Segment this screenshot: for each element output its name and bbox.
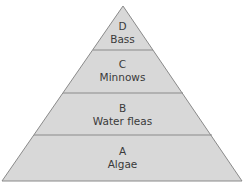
layer-c-letter: C [0, 58, 245, 71]
layer-c-name: Minnows [0, 71, 245, 84]
layer-a-letter: A [0, 145, 245, 158]
layer-b: B Water fleas [0, 102, 245, 128]
layer-a-name: Algae [0, 158, 245, 171]
layer-d: D Bass [0, 20, 245, 46]
layer-d-letter: D [0, 20, 245, 33]
layer-a: A Algae [0, 145, 245, 171]
layer-d-name: Bass [0, 33, 245, 46]
layer-b-letter: B [0, 102, 245, 115]
layer-c: C Minnows [0, 58, 245, 84]
layer-b-name: Water fleas [0, 115, 245, 128]
